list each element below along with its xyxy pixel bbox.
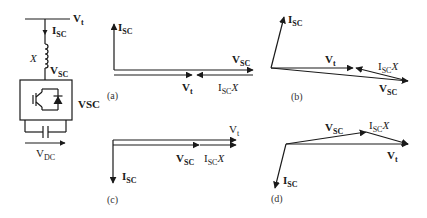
vsc-phasor-diagram: Vt ISC X VSC VSC xyxy=(0,0,427,218)
vt-label: Vt xyxy=(387,149,398,164)
iscx-label: ISCX xyxy=(204,152,225,167)
vsc-label: VSC xyxy=(176,152,194,167)
dc-capacitor-icon xyxy=(25,120,66,138)
vsc-label: VSC xyxy=(232,53,250,68)
inductor-icon xyxy=(45,44,48,68)
iscx-label: ISCX xyxy=(369,119,390,134)
vt-label: Vt xyxy=(325,53,336,68)
vt-label: Vt xyxy=(182,81,193,96)
converter-box xyxy=(20,80,72,120)
iscx-label: ISCX xyxy=(378,60,399,75)
dc-voltage-label: VDC xyxy=(36,147,55,162)
phasor-diagram-a: ISC VSC Vt ISCX (a) xyxy=(107,21,253,102)
diode-icon xyxy=(54,89,63,110)
iscx-label: ISCX xyxy=(218,81,239,96)
isc-label: ISC xyxy=(118,21,133,36)
isc-label: ISC xyxy=(283,174,298,189)
converter-label: VSC xyxy=(78,98,100,110)
converter-voltage-label: VSC xyxy=(50,64,68,79)
bus-voltage-label: Vt xyxy=(73,12,84,27)
vsc-circuit: Vt ISC X VSC VSC xyxy=(20,12,100,162)
panel-label: (b) xyxy=(291,91,303,103)
phasor-diagram-d: ISC VSC ISCX Vt (d) xyxy=(271,119,408,205)
vsc-label: VSC xyxy=(325,121,343,136)
isc-phasor xyxy=(271,17,284,68)
reactance-label: X xyxy=(29,52,38,64)
isc-label: ISC xyxy=(122,170,137,185)
current-label: ISC xyxy=(52,24,67,39)
igbt-icon xyxy=(33,89,58,110)
panel-label: (d) xyxy=(271,193,283,205)
vsc-label: VSC xyxy=(379,82,397,97)
panel-label: (a) xyxy=(107,90,118,102)
vt-label: Vt xyxy=(229,123,240,138)
phasor-diagram-b: ISC Vt ISCX VSC (b) xyxy=(271,13,408,103)
vsc-phasor xyxy=(286,132,366,144)
phasor-diagram-c: ISC Vt VSC ISCX (c) xyxy=(107,123,240,206)
current-direction-arrow-icon xyxy=(43,30,48,35)
isc-label: ISC xyxy=(288,13,303,28)
panel-label: (c) xyxy=(107,194,118,206)
